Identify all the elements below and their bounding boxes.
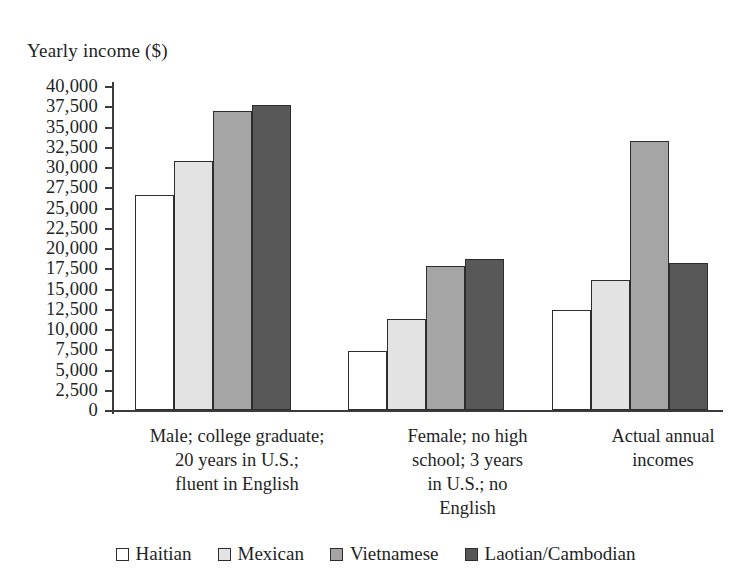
bar-mexican[interactable]	[591, 280, 630, 410]
legend-item-label: Laotian/Cambodian	[485, 543, 636, 565]
y-tick-label: 27,500	[46, 177, 98, 198]
y-tick-mark	[105, 208, 113, 210]
legend-swatch-mexican-icon	[218, 548, 231, 561]
bar-vietnamese[interactable]	[426, 266, 465, 410]
bar-group	[135, 86, 291, 410]
y-tick-mark	[105, 289, 113, 291]
y-tick-mark	[105, 309, 113, 311]
bar-laotian-cambodian[interactable]	[669, 263, 708, 410]
bar-group	[348, 86, 504, 410]
y-tick-label: 12,500	[46, 298, 98, 319]
bar-vietnamese[interactable]	[213, 111, 252, 410]
category-label-line: Actual annual	[575, 424, 751, 448]
category-label-line: fluent in English	[112, 472, 362, 496]
y-tick-label: 37,500	[46, 96, 98, 117]
y-tick-mark	[105, 349, 113, 351]
category-label-line: in U.S.; no	[360, 472, 575, 496]
bar-vietnamese[interactable]	[630, 141, 669, 410]
bar-mexican[interactable]	[174, 161, 213, 410]
y-tick-mark	[105, 410, 113, 412]
y-tick-mark	[105, 268, 113, 270]
y-tick-label: 35,000	[46, 116, 98, 137]
bar-haitian[interactable]	[552, 310, 591, 410]
legend-item-label: Vietnamese	[350, 543, 439, 565]
y-tick-mark	[105, 106, 113, 108]
y-tick-mark	[105, 187, 113, 189]
y-tick-label: 10,000	[46, 319, 98, 340]
y-tick-label: 30,000	[46, 157, 98, 178]
legend-item-label: Mexican	[238, 543, 304, 565]
bar-laotian-cambodian[interactable]	[252, 105, 291, 410]
y-tick-mark	[105, 329, 113, 331]
y-tick-label: 5,000	[55, 359, 98, 380]
y-tick-label: 40,000	[46, 76, 98, 97]
y-tick-mark	[105, 147, 113, 149]
bar-chart: Yearly income ($) 40,00037,50035,00032,5…	[0, 0, 751, 582]
y-tick-mark	[105, 228, 113, 230]
legend-item-label: Haitian	[136, 543, 192, 565]
legend-item[interactable]: Mexican	[218, 543, 304, 565]
category-label-line: incomes	[575, 448, 751, 472]
y-tick-mark	[105, 127, 113, 129]
y-tick-label: 2,500	[55, 379, 98, 400]
legend-swatch-laotian-icon	[465, 548, 478, 561]
y-tick-label: 25,000	[46, 197, 98, 218]
category-label-line: Female; no high	[360, 424, 575, 448]
category-label-line: 20 years in U.S.;	[112, 448, 362, 472]
legend-item[interactable]: Vietnamese	[330, 543, 439, 565]
category-label-line: school; 3 years	[360, 448, 575, 472]
y-tick-mark	[105, 390, 113, 392]
y-tick-label: 0	[89, 400, 98, 421]
bar-group	[552, 86, 708, 410]
y-tick-label: 20,000	[46, 238, 98, 259]
x-axis-category-label: Actual annualincomes	[575, 424, 751, 472]
chart-legend: HaitianMexicanVietnameseLaotian/Cambodia…	[0, 543, 751, 565]
category-label-line: English	[360, 496, 575, 520]
legend-item[interactable]: Haitian	[116, 543, 192, 565]
x-axis-category-label: Male; college graduate;20 years in U.S.;…	[112, 424, 362, 496]
y-tick-label: 32,500	[46, 136, 98, 157]
legend-swatch-vietnamese-icon	[330, 548, 343, 561]
bar-mexican[interactable]	[387, 319, 426, 410]
y-tick-mark	[105, 86, 113, 88]
y-tick-mark	[105, 248, 113, 250]
y-tick-label: 15,000	[46, 278, 98, 299]
legend-swatch-haitian-icon	[116, 548, 129, 561]
x-axis-line	[112, 410, 723, 412]
bar-laotian-cambodian[interactable]	[465, 259, 504, 410]
y-tick-mark	[105, 370, 113, 372]
y-tick-label: 7,500	[55, 339, 98, 360]
x-axis-category-label: Female; no highschool; 3 yearsin U.S.; n…	[360, 424, 575, 520]
y-axis-title: Yearly income ($)	[27, 40, 168, 62]
legend-item[interactable]: Laotian/Cambodian	[465, 543, 636, 565]
y-tick-label: 22,500	[46, 217, 98, 238]
bar-haitian[interactable]	[135, 195, 174, 410]
y-tick-label: 17,500	[46, 258, 98, 279]
category-label-line: Male; college graduate;	[112, 424, 362, 448]
y-tick-mark	[105, 167, 113, 169]
plot-area: 40,00037,50035,00032,50030,00027,50025,0…	[112, 86, 723, 410]
bar-haitian[interactable]	[348, 351, 387, 410]
